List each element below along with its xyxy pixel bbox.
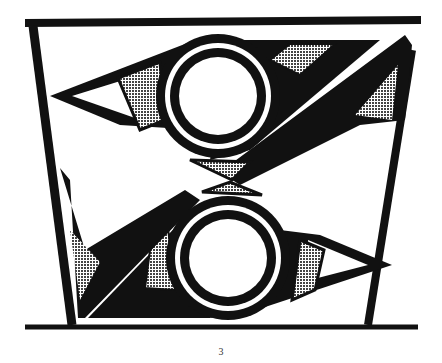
- lower-eye: [60, 168, 392, 320]
- upper-eye: [50, 34, 412, 185]
- formline-artwork: [0, 0, 442, 363]
- page-number: 3: [0, 346, 442, 357]
